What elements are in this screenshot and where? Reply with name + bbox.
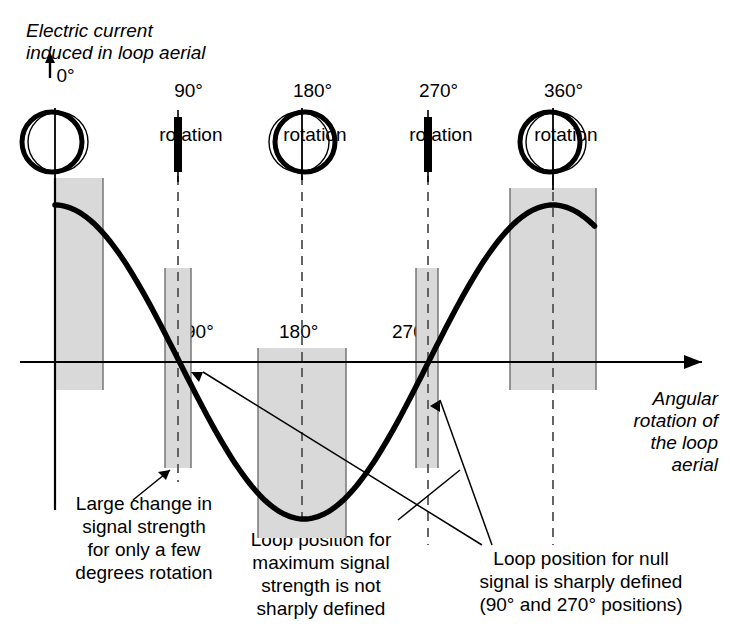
diagram-vector-layer: [0, 0, 730, 641]
loop-aerial-diagram: Electric current induced in loop aerial …: [0, 0, 730, 641]
x-axis-arrowhead: [684, 355, 702, 369]
loop-symbol-270-degrees: [424, 110, 432, 182]
loop-symbol-360-degrees: [520, 108, 586, 190]
axes: [20, 178, 702, 510]
loop-symbol-0-degrees: [22, 108, 88, 180]
shaded-bands: [55, 178, 596, 538]
y-axis-direction-arrow: [45, 52, 55, 78]
dashed-reference-lines: [178, 160, 553, 545]
loop-symbol-90-degrees: [174, 110, 182, 182]
loop-symbol-180-degrees: [269, 108, 335, 180]
arrowhead-null-90: [191, 372, 203, 382]
